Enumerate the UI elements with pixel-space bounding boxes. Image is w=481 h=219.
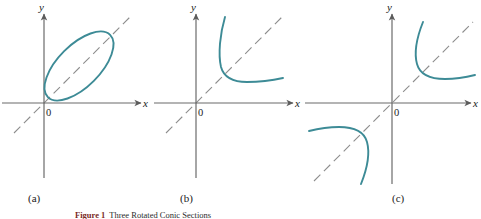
y-axis-label: y (386, 1, 392, 13)
panel-label-a: (a) (28, 192, 40, 204)
x-axis-label: x (142, 97, 148, 109)
panel-label-b: (b) (180, 192, 193, 204)
panel-parabola: y x 0 (152, 0, 302, 190)
figure-caption-number: Figure 1 (75, 211, 105, 219)
panel-label-c: (c) (392, 192, 404, 204)
x-axis-label: x (472, 97, 478, 109)
parabola-curve (220, 17, 283, 82)
hyperbola-diagram: y x 0 (305, 0, 481, 190)
origin-label: 0 (394, 107, 399, 118)
panel-ellipse: y x 0 (0, 0, 150, 190)
parabola-diagram: y x 0 (152, 0, 302, 190)
origin-label: 0 (198, 107, 203, 118)
rotation-axis-dashed-line (166, 17, 282, 133)
rotation-axis-dashed-line (314, 22, 473, 181)
rotation-axis-dashed-line (14, 17, 130, 133)
panel-hyperbola: y x 0 (305, 0, 481, 190)
y-axis-label: y (190, 1, 196, 13)
ellipse-diagram: y x 0 (0, 0, 150, 190)
origin-label: 0 (46, 107, 51, 118)
figure-container: y x 0 y x 0 (0, 0, 481, 219)
x-axis-label: x (294, 97, 300, 109)
y-axis-label: y (38, 1, 44, 13)
figure-caption-text: Three Rotated Conic Sections (109, 211, 211, 219)
ellipse-curve (33, 20, 125, 112)
figure-caption: Figure 1Three Rotated Conic Sections (75, 211, 415, 219)
